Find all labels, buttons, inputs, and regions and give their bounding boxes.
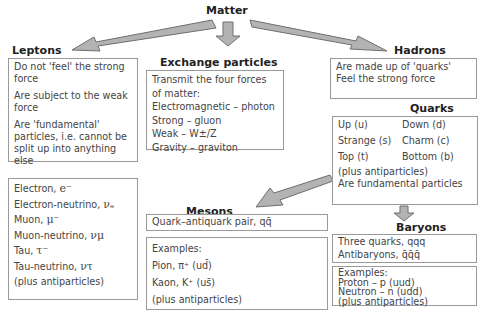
hadrons-line: Are made up of 'quarks' <box>336 61 471 73</box>
quarks-grid: Up (u) Down (d) Strange (s) Charm (c) To… <box>338 119 472 163</box>
mesons-examples-label: Examples: <box>152 240 322 257</box>
electron-neutrino-symbol: νₑ <box>103 198 114 211</box>
tau-symbol: τ⁻ <box>36 244 48 257</box>
exchange-title: Exchange particles <box>160 56 277 69</box>
quark-strange: Strange (s) <box>338 135 402 147</box>
quark-bottom: Bottom (b) <box>402 151 472 163</box>
mesons-footer: (plus antiparticles) <box>152 291 322 308</box>
lepton-particle: Muon-neutrino, νμ <box>14 228 132 244</box>
baryons-footer: (plus antiparticles) <box>338 297 471 307</box>
leptons-footer: (plus antiparticles) <box>14 274 132 290</box>
arrow-to-mesons-icon <box>256 175 333 207</box>
lepton-particle: Tau, τ⁻ <box>14 243 132 259</box>
meson-example: Pion, π⁺ (ud̄) <box>152 257 322 274</box>
leptons-title: Leptons <box>12 44 62 57</box>
arrow-to-exchange-icon <box>216 22 240 46</box>
hadrons-box: Are made up of 'quarks' Feel the strong … <box>330 58 477 99</box>
quark-up: Up (u) <box>338 119 402 131</box>
baryons-examples-box: Examples: Proton – p (uud) Neutron – n (… <box>332 266 477 306</box>
lepton-particle: Electron, e⁻ <box>14 181 132 197</box>
force-item: Electromagnetic – photon <box>152 100 278 114</box>
lepton-particle: Tau-neutrino, ντ <box>14 259 132 275</box>
mesons-definition-box: Quark–antiquark pair, qq̄ <box>146 214 328 231</box>
quarks-title: Quarks <box>410 102 454 115</box>
leptons-properties-box: Do not 'feel' the strong force Are subje… <box>8 58 138 162</box>
force-item: Strong – gluon <box>152 114 278 128</box>
tau-neutrino-symbol: ντ <box>80 260 93 273</box>
matter-title: Matter <box>206 4 248 17</box>
muon-symbol: μ⁻ <box>46 213 59 226</box>
leptons-property: Do not 'feel' the strong force <box>14 61 132 85</box>
mesons-definition: Quark–antiquark pair, qq̄ <box>152 216 322 228</box>
hadrons-title: Hadrons <box>394 44 446 57</box>
baryons-line: Three quarks, qqq <box>338 236 471 249</box>
arrow-to-baryons-icon <box>394 206 414 221</box>
arrow-to-leptons-icon <box>72 20 216 51</box>
quark-top: Top (t) <box>338 151 402 163</box>
quark-charm: Charm (c) <box>402 135 472 147</box>
leptons-particles-box: Electron, e⁻ Electron-neutrino, νₑ Muon,… <box>8 178 138 300</box>
baryons-line: Antibaryons, q̄q̄q̄ <box>338 249 471 262</box>
baryons-title: Baryons <box>396 221 446 234</box>
arrow-to-hadrons-icon <box>250 20 387 51</box>
muon-neutrino-symbol: νμ <box>90 229 104 242</box>
leptons-property: Are 'fundamental' particles, i.e. cannot… <box>14 119 132 167</box>
lepton-particle: Electron-neutrino, νₑ <box>14 197 132 213</box>
hadrons-line: Feel the strong force <box>336 73 471 85</box>
electron-symbol: e⁻ <box>59 182 71 195</box>
baryons-box: Three quarks, qqq Antibaryons, q̄q̄q̄ <box>332 234 477 263</box>
leptons-property: Are subject to the weak force <box>14 90 132 114</box>
quarks-fundamental: Are fundamental particles <box>338 178 472 190</box>
exchange-intro: Transmit the four forces of matter: <box>152 73 278 100</box>
quarks-footer: (plus antiparticles) <box>338 166 472 178</box>
mesons-examples-box: Examples: Pion, π⁺ (ud̄) Kaon, K⁺ (us̄) … <box>146 237 328 310</box>
force-item: Gravity – graviton <box>152 141 278 155</box>
force-item: Weak – W±/Z <box>152 127 278 141</box>
quarks-box: Up (u) Down (d) Strange (s) Charm (c) To… <box>332 116 478 205</box>
quark-down: Down (d) <box>402 119 472 131</box>
exchange-box: Transmit the four forces of matter: Elec… <box>146 70 284 150</box>
meson-example: Kaon, K⁺ (us̄) <box>152 274 322 291</box>
lepton-particle: Muon, μ⁻ <box>14 212 132 228</box>
